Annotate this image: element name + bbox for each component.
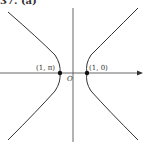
hyperbola-left-branch [8,12,60,140]
point-label-left: (1, π) [36,65,55,72]
hyperbola-figure [0,0,146,142]
point-label-right: (1, 0) [89,65,108,72]
vertex-point-left [58,71,62,75]
x-axis-arrow-icon [137,71,143,76]
hyperbola-right-branch [87,8,139,140]
origin-label: O [67,76,73,83]
figure-title: 37. (a) [0,0,37,6]
